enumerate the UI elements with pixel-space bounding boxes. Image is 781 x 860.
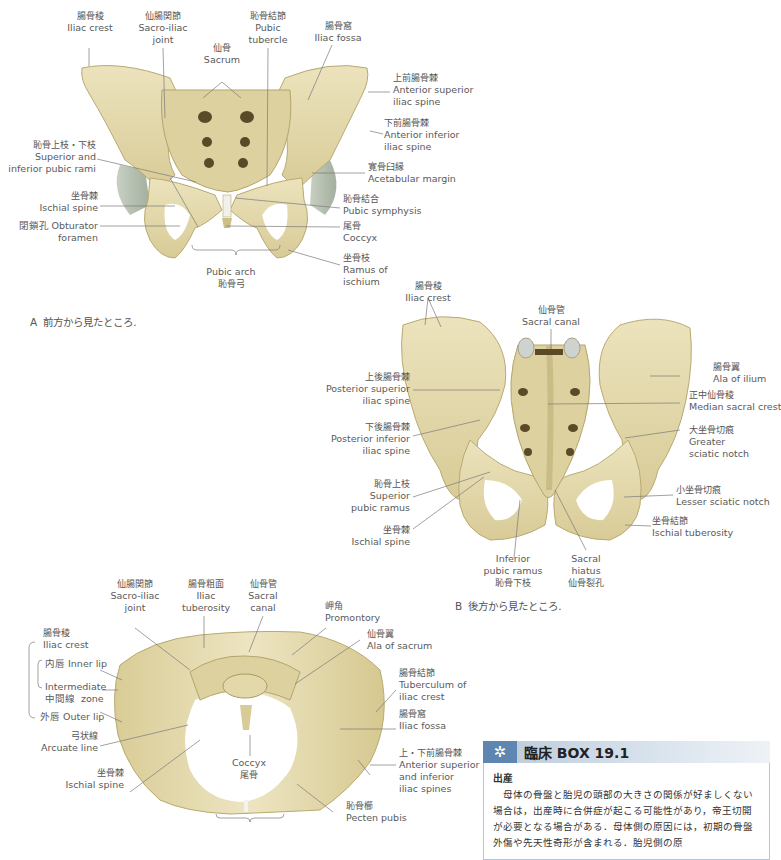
clinical-box-header: ✲ 臨床 BOX 19.1 (483, 741, 770, 763)
label-c-iliac-tuberosity: 腸骨粗面 Iliac tuberosity (176, 578, 236, 614)
label-a-aiis: 下前腸骨棘 Anterior inferior iliac spine (384, 117, 460, 153)
label-c-arcuate-line: 弓状線 Arcuate line (20, 730, 98, 754)
label-c-outer-lip: 外唇 Outer lip (40, 711, 104, 723)
label-a-iliac-fossa: 腸骨窩 Iliac fossa (304, 20, 372, 44)
label-b-superior-pubic-ramus: 恥骨上枝 Superior pubic ramus (340, 478, 410, 514)
label-a-pubic-tubercle: 恥骨結節 Pubic tubercle (240, 10, 296, 46)
figure-a-anterior-pelvis (82, 66, 368, 258)
label-a-obturator-foramen: 閉鎖孔 Obturator foramen (0, 220, 98, 244)
label-b-sacral-canal: 仙骨管 Sacral canal (515, 304, 587, 328)
clinical-box-text: 母体の骨盤と胎児の頭部の大きさの関係が好ましくない場合は，出産時に合併症が起こる… (493, 787, 760, 851)
label-c-sacroiliac-joint: 仙腸関節 Sacro-iliac joint (100, 578, 170, 614)
label-c-ala-of-sacrum: 仙骨翼 Ala of sacrum (367, 628, 432, 652)
label-b-sacral-hiatus: Sacral hiatus 仙骨裂孔 (558, 553, 614, 589)
label-c-iliac-crest: 腸骨稜 Iliac crest (43, 627, 89, 651)
label-a-pubic-symphysis: 恥骨結合 Pubic symphysis (343, 193, 422, 217)
label-c-tuberculum-iliac-crest: 腸骨結節 Tuberculum of iliac crest (399, 667, 466, 703)
label-b-ala-of-ilium: 腸骨翼 Ala of ilium (713, 361, 766, 385)
label-c-promontory: 岬角 Promontory (325, 600, 380, 624)
figure-c-superior-pelvis (114, 631, 384, 814)
caption-a: A前方から見たところ. (30, 314, 137, 329)
label-c-iliac-fossa: 腸骨窩 Iliac fossa (399, 708, 446, 732)
label-a-acetabular-margin: 寛骨臼縁 Acetabular margin (368, 161, 456, 185)
label-a-pubic-rami: 恥骨上枝・下枝 Superior and inferior pubic rami (0, 139, 96, 175)
label-b-inferior-pubic-ramus: Inferior pubic ramus 恥骨下枝 (478, 553, 548, 589)
label-a-ramus-of-ischium: 坐骨枝 Ramus of ischium (343, 252, 388, 288)
label-c-ischial-spine: 坐骨棘 Ischial spine (40, 767, 124, 791)
label-b-piis: 下後腸骨棘 Posterior inferior iliac spine (318, 421, 410, 457)
clinical-box-subtitle: 出産 (493, 771, 760, 787)
label-c-coccyx: Coccyx 尾骨 (228, 757, 270, 781)
label-c-pecten-pubis: 恥骨櫛 Pecten pubis (346, 800, 407, 824)
clinical-box-body: 出産 母体の骨盤と胎児の頭部の大きさの関係が好ましくない場合は，出産時に合併症が… (483, 763, 770, 860)
label-b-iliac-crest: 腸骨稜 Iliac crest (398, 280, 458, 304)
caption-b: B後方から見たところ. (455, 598, 562, 613)
clinical-box-title: 臨床 BOX 19.1 (524, 742, 629, 762)
label-b-greater-sciatic-notch: 大坐骨切痕 Greater sciatic notch (689, 424, 749, 460)
label-a-pubic-arch: Pubic arch 恥骨弓 (196, 266, 266, 290)
label-b-median-sacral-crest: 正中仙骨稜 Median sacral crest (689, 389, 781, 413)
clinical-box: ✲ 臨床 BOX 19.1 出産 母体の骨盤と胎児の頭部の大きさの関係が好ましく… (483, 741, 770, 836)
label-c-intermediate-zone: Intermediate 中間線 zone (45, 681, 106, 705)
label-a-iliac-crest: 腸骨稜 Iliac crest (50, 10, 130, 34)
label-a-asis: 上前腸骨棘 Anterior superior iliac spine (393, 72, 473, 108)
label-b-ischial-tuberosity: 坐骨結節 Ischial tuberosity (652, 515, 733, 539)
label-b-lesser-sciatic-notch: 小坐骨切痕 Lesser sciatic notch (676, 484, 770, 508)
label-a-coccyx: 尾骨 Coccyx (343, 220, 377, 244)
clinical-asterisk-icon: ✲ (483, 741, 517, 763)
label-b-psis: 上後腸骨棘 Posterior superior iliac spine (318, 371, 410, 407)
label-c-sacral-canal: 仙骨管 Sacral canal (240, 578, 286, 614)
label-c-anterior-iliac-spines: 上・下前腸骨棘 Anterior superior and inferior i… (399, 747, 479, 795)
label-a-sacroiliac-joint: 仙腸関節 Sacro-iliac joint (128, 10, 198, 46)
label-a-ischial-spine: 坐骨棘 Ischial spine (0, 190, 98, 214)
label-c-inner-lip: 内唇 Inner lip (45, 658, 107, 670)
label-b-ischial-spine: 坐骨棘 Ischial spine (340, 524, 410, 548)
